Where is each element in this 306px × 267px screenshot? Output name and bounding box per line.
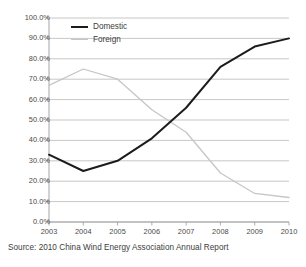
x-tick-label: 2010: [269, 228, 306, 236]
source-caption: Source: 2010 China Wind Energy Associati…: [8, 243, 229, 253]
legend-line-swatch-icon: [71, 36, 88, 43]
chart-legend: Domestic Foreign: [71, 20, 181, 46]
chart-figure: 0.0%10.0%20.0%30.0%40.0%50.0%60.0%70.0%8…: [0, 0, 306, 267]
legend-item-label: Foreign: [93, 35, 121, 44]
legend-item-domestic: Domestic: [71, 20, 181, 33]
chart-plot-area: 0.0%10.0%20.0%30.0%40.0%50.0%60.0%70.0%8…: [0, 0, 306, 238]
legend-item-label: Domestic: [93, 22, 127, 31]
legend-line-swatch-icon: [71, 23, 88, 30]
legend-item-foreign: Foreign: [71, 33, 181, 46]
